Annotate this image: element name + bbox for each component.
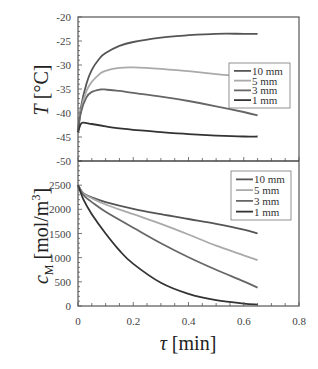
chart-figure: -20-25-30-35-40-45-50 10 mm5 mm3 mm1 mm …: [0, 0, 318, 369]
y-tick-label: 2500: [49, 179, 72, 191]
concentration-legend: 10 mm5 mm3 mm1 mm: [231, 171, 291, 220]
x-tick-label: 0: [75, 315, 81, 327]
x-tick-label: 0.2: [126, 315, 140, 327]
y-tick-label: -30: [56, 59, 71, 71]
y-tick-label: 500: [55, 276, 72, 288]
y-tick-label: -25: [56, 35, 71, 47]
y-tick-label: 2000: [49, 203, 72, 215]
lower-y-axis-ticks: 05001000150020002500: [49, 161, 82, 312]
temperature-legend: 10 mm5 mm3 mm1 mm: [229, 63, 290, 108]
temperature-panel: -20-25-30-35-40-45-50 10 mm5 mm3 mm1 mm …: [30, 11, 290, 167]
concentration-axis-title: cM [mol/m3]: [29, 188, 56, 284]
y-tick-label: 0: [66, 300, 72, 312]
temperature-axis-title: T [°C]: [30, 65, 52, 116]
concentration-panel: 05001000150020002500 10 mm5 mm3 mm1 mm c…: [29, 161, 291, 312]
y-tick-label: -50: [56, 155, 71, 167]
legend-label: 1 mm: [252, 94, 278, 106]
y-tick-label: -35: [56, 83, 71, 95]
y-tick-label: 1500: [49, 228, 72, 240]
x-tick-label: 0.8: [292, 315, 306, 327]
time-axis-title: τ [min]: [160, 332, 217, 354]
plot-frame: [78, 17, 299, 306]
y-tick-label: -20: [56, 11, 71, 23]
x-tick-label: 0.6: [237, 315, 251, 327]
series-line-1mm: [78, 123, 258, 137]
legend-label: 1 mm: [254, 206, 280, 218]
y-tick-label: -40: [56, 107, 71, 119]
y-tick-label: 1000: [49, 252, 72, 264]
y-tick-label: -45: [56, 131, 71, 143]
x-tick-label: 0.4: [182, 315, 196, 327]
